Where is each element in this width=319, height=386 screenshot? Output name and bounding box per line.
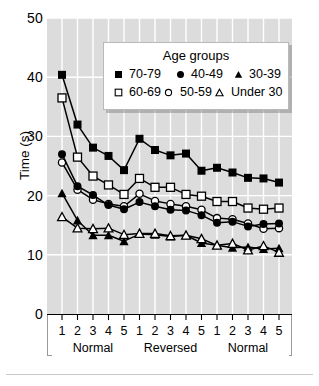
legend: Age groups 70-79 40-49 30-39	[103, 42, 289, 110]
legend-item-40-49: 40-49	[172, 67, 230, 81]
y-axis-label: Time (s)	[17, 106, 32, 206]
legend-label-30-39: 30-39	[249, 67, 281, 81]
legend-label-under-30: Under 30	[231, 85, 282, 99]
x-axis-band: 123451234512345 NormalReversedNormal	[47, 314, 292, 356]
legend-label-60-69: 60-69	[129, 85, 161, 99]
legend-label-50-59: 50-59	[180, 85, 212, 99]
x-group-label-normal-0: Normal	[52, 340, 134, 356]
x-tick-label: 2	[70, 323, 86, 340]
x-tick-label: 2	[225, 323, 241, 340]
x-tick-label: 1	[132, 323, 148, 340]
legend-label-70-79: 70-79	[129, 67, 161, 81]
x-tick-label: 1	[54, 323, 70, 340]
legend-title: Age groups	[104, 48, 288, 63]
x-tick-label: 4	[178, 323, 194, 340]
x-group-label-reversed-1: Reversed	[130, 340, 212, 356]
x-tick-label: 5	[271, 323, 287, 340]
legend-item-30-39: 30-39	[230, 67, 281, 81]
x-tick-label: 3	[240, 323, 256, 340]
open-square-marker	[110, 88, 126, 97]
x-tick-label: 4	[256, 323, 272, 340]
legend-item-50-59: 50-59	[161, 85, 212, 99]
x-tick-label: 5	[194, 323, 210, 340]
open-circle-marker	[161, 88, 177, 97]
open-triangle-marker	[212, 88, 228, 97]
y-tick-label-0: 0	[35, 306, 43, 322]
filled-circle-marker	[172, 70, 188, 79]
legend-item-70-79: 70-79	[110, 67, 172, 81]
y-tick-label-50: 50	[27, 10, 43, 26]
x-axis-tick-labels: 123451234512345	[47, 323, 292, 340]
y-tick-label-10: 10	[27, 247, 43, 263]
x-tick-label: 4	[101, 323, 117, 340]
x-tick-label: 1	[209, 323, 225, 340]
filled-triangle-marker	[230, 70, 246, 79]
x-group-label-normal-2: Normal	[207, 340, 289, 356]
x-axis-tick-marks	[47, 314, 292, 323]
legend-row-1: 70-79 40-49 30-39	[104, 67, 288, 81]
legend-item-under-30: Under 30	[212, 85, 282, 99]
legend-row-2: 60-69 50-59 Under 30	[104, 85, 288, 99]
x-tick-label: 3	[85, 323, 101, 340]
x-tick-label: 2	[147, 323, 163, 340]
x-axis-group-labels: NormalReversedNormal	[47, 340, 292, 356]
y-tick-label-40: 40	[27, 69, 43, 85]
filled-square-marker	[110, 70, 126, 79]
bottom-divider-rule	[6, 374, 313, 375]
x-tick-label: 3	[163, 323, 179, 340]
x-tick-label: 5	[116, 323, 132, 340]
legend-item-60-69: 60-69	[110, 85, 161, 99]
figure-chart-time-vs-trial: 01020304050 Time (s) Age groups 70-79 40…	[0, 0, 319, 386]
legend-label-40-49: 40-49	[191, 67, 223, 81]
